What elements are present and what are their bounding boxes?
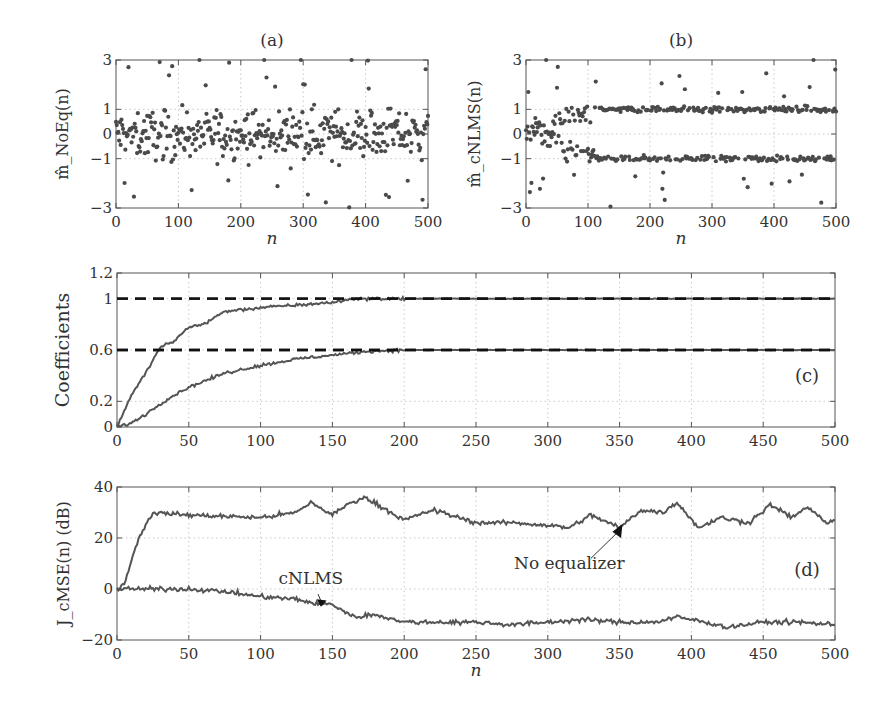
data-point [321,121,325,125]
data-point [275,137,279,141]
data-point [275,184,279,188]
data-point [119,143,123,147]
data-point [827,108,831,112]
data-point [544,58,548,62]
data-point [158,134,162,138]
data-point [774,159,778,163]
data-point [171,157,175,161]
y-tick-label: 0 [103,580,113,598]
data-point [315,138,319,142]
data-point [326,119,330,123]
data-point [285,118,289,122]
data-point [742,177,746,181]
data-point [172,128,176,132]
x-tick-label: 150 [318,432,347,450]
data-point [653,155,657,159]
data-point [268,139,272,143]
data-point [370,111,374,115]
y-tick-label: −3 [500,199,522,217]
data-point [805,104,809,108]
data-point [268,144,272,148]
data-point [312,103,316,107]
data-point [397,111,401,115]
data-point [660,187,664,191]
data-point [153,120,157,124]
data-point [142,119,146,123]
data-point [570,148,574,152]
data-point [295,144,299,148]
x-tick-label: 100 [164,213,193,231]
data-point [704,106,708,110]
x-tick-label: 0 [111,213,121,231]
data-point [166,115,170,119]
data-point [144,129,148,133]
data-point [227,61,231,65]
data-point [412,119,416,123]
data-point [246,112,250,116]
y-tick-label: 1 [103,290,113,308]
data-point [192,132,196,136]
x-tick-label: 50 [179,432,198,450]
data-point [556,134,560,138]
data-point [255,136,259,140]
data-point [362,145,366,149]
data-point [782,94,786,98]
panel-b: 0100200300400500−3−1013nm̂_cNLMS(n)(b) [465,30,850,248]
data-point [204,112,208,116]
data-point [567,110,571,114]
data-point [804,108,808,112]
y-tick-label: 3 [102,51,112,69]
y-tick-label: 0.6 [89,341,113,359]
y-tick-label: 1.2 [89,264,113,282]
data-point [298,126,302,130]
data-point [164,125,168,129]
data-point [126,133,130,137]
data-point [591,148,595,152]
data-point [683,87,687,91]
data-point [396,131,400,135]
x-tick-label: 300 [533,645,562,663]
data-point [330,159,334,163]
data-point [219,115,223,119]
data-point [819,201,823,205]
data-point [740,90,744,94]
data-point [677,74,681,78]
data-point [395,123,399,127]
data-point [361,154,365,158]
x-tick-label: 200 [390,645,419,663]
data-point [133,122,137,126]
data-point [254,108,258,112]
data-point [176,138,180,142]
data-point [533,116,537,120]
panel-title: (a) [260,30,283,50]
y-axis-label: Coefficients [51,293,73,407]
data-point [208,127,212,131]
data-point [307,151,311,155]
data-point [242,140,246,144]
data-point [214,116,218,120]
x-tick-label: 350 [605,645,634,663]
data-point [364,125,368,129]
data-point [261,145,265,149]
data-point [288,107,292,111]
data-point [239,128,243,132]
data-point [221,154,225,158]
data-point [817,156,821,160]
x-axis-label: n [267,228,278,248]
data-point [420,198,424,202]
data-point [623,155,627,159]
data-point [272,141,276,145]
data-point [310,129,314,133]
data-point [373,122,377,126]
data-point [257,123,261,127]
data-point [320,138,324,142]
data-point [131,135,135,139]
data-point [226,178,230,182]
data-point [327,136,331,140]
data-point [787,179,791,183]
data-point [568,140,572,144]
data-point [833,68,837,72]
data-point [593,105,597,109]
x-tick-label: 200 [390,432,419,450]
data-point [404,112,408,116]
